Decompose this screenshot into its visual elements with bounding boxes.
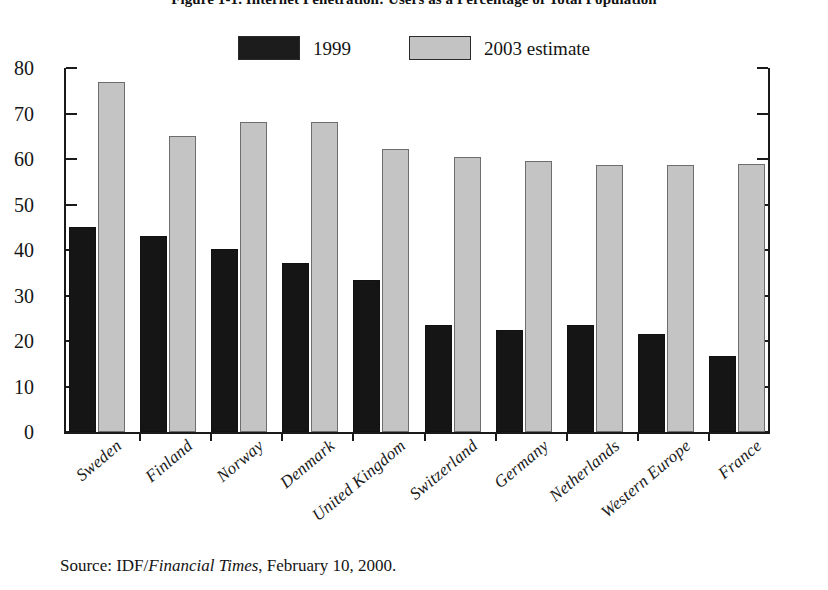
y-tick-label-30: 30 xyxy=(0,284,34,307)
bar xyxy=(140,236,167,432)
legend-label: 2003 estimate xyxy=(484,39,590,58)
bar-group xyxy=(140,68,196,432)
y-tick-label-50: 50 xyxy=(0,193,34,216)
bar xyxy=(454,157,481,432)
bar xyxy=(98,82,125,432)
x-axis-label: Norway xyxy=(213,436,268,487)
source-publication: Financial Times xyxy=(148,556,258,575)
bar xyxy=(69,227,96,432)
bar xyxy=(240,122,267,432)
light-swatch xyxy=(409,36,471,60)
y-tick-label-20: 20 xyxy=(0,330,34,353)
bar xyxy=(738,164,765,432)
legend-entry-2: 2003 estimate xyxy=(409,36,590,60)
bar xyxy=(567,325,594,432)
bar-group xyxy=(567,68,623,432)
x-axis-label: France xyxy=(714,436,765,484)
source-note: Source: IDF/Financial Times, February 10… xyxy=(60,556,396,576)
y-tick-label-60: 60 xyxy=(0,148,34,171)
y-tick-label-0: 0 xyxy=(0,421,34,444)
bar xyxy=(353,280,380,432)
bar-group xyxy=(211,68,267,432)
x-axis-label: Switzerland xyxy=(405,436,481,504)
x-axis-label: Germany xyxy=(490,436,552,493)
bar-group xyxy=(353,68,409,432)
plot-area: 01020304050607080 xyxy=(64,68,770,432)
legend-entry-1: 1999 xyxy=(238,36,351,60)
bar-group xyxy=(496,68,552,432)
y-tick-label-70: 70 xyxy=(0,102,34,125)
y-tick-label-80: 80 xyxy=(0,57,34,80)
bar xyxy=(382,149,409,432)
bar-group xyxy=(709,68,765,432)
bar xyxy=(667,165,694,432)
bar xyxy=(311,122,338,432)
bar-group xyxy=(425,68,481,432)
x-axis-label: Finland xyxy=(142,436,197,487)
x-axis-spine xyxy=(64,432,770,434)
bar-group xyxy=(638,68,694,432)
source-suffix: , February 10, 2000. xyxy=(258,556,396,575)
bar-series-container xyxy=(66,68,768,432)
x-axis-labels: SwedenFinlandNorwayDenmarkUnited Kingdom… xyxy=(64,436,770,546)
legend-label: 1999 xyxy=(313,39,351,58)
x-axis-label: Sweden xyxy=(72,436,126,485)
bar xyxy=(169,136,196,432)
page-title: Figure 1-1. Internet Penetration: Users … xyxy=(0,0,828,8)
bar xyxy=(425,325,452,432)
bar xyxy=(525,161,552,432)
source-prefix: Source: IDF/ xyxy=(60,556,148,575)
bar-group xyxy=(282,68,338,432)
bar xyxy=(638,334,665,432)
bar-group xyxy=(69,68,125,432)
bar xyxy=(596,165,623,432)
chart-legend: 19992003 estimate xyxy=(0,36,828,60)
y-tick-label-40: 40 xyxy=(0,239,34,262)
bar xyxy=(211,249,238,432)
x-axis-label: Denmark xyxy=(277,436,339,493)
dark-swatch xyxy=(238,36,300,60)
y-axis-right-spine xyxy=(768,68,770,432)
y-tick-label-10: 10 xyxy=(0,375,34,398)
bar xyxy=(709,356,736,432)
bar xyxy=(496,330,523,432)
bar xyxy=(282,263,309,432)
